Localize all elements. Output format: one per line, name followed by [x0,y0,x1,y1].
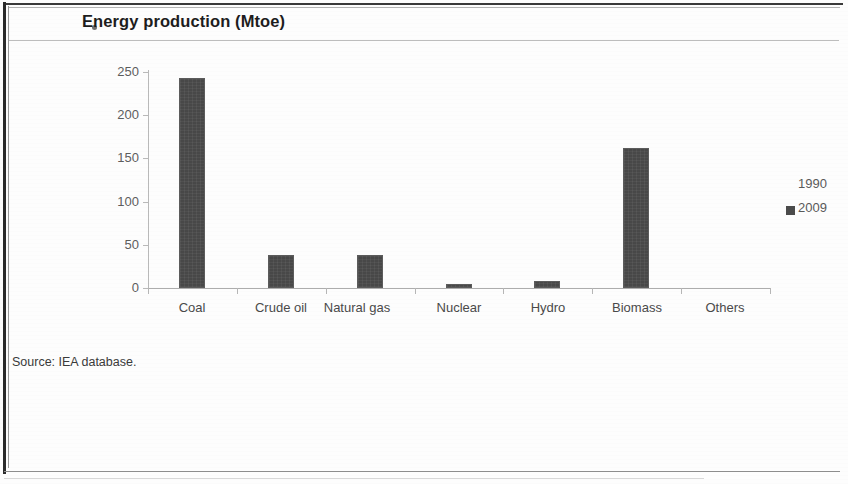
y-axis-tick [143,245,149,246]
x-axis-label-crude-oil: Crude oil [233,300,329,316]
legend-item-2009[interactable]: 2009 [786,200,848,224]
y-axis-label-0: 0 [95,280,139,295]
x-axis-label-natural-gas: Natural gas [322,300,392,316]
legend-label-2009: 2009 [798,200,827,215]
legend-label-1990: 1990 [798,176,827,191]
y-axis-line [148,70,149,289]
bar-nuclear-2009 [446,284,472,288]
x-axis-tick [681,288,682,294]
x-axis-tick [326,288,327,294]
source-note: Source: IEA database. [12,355,136,369]
y-axis-label-100: 100 [95,194,139,209]
x-axis-tick [770,288,771,294]
bar-natural-gas-2009 [357,255,383,288]
y-axis-label-200: 200 [95,107,139,122]
y-axis-tick [143,202,149,203]
bar-biomass-2009 [623,148,649,288]
chart-plot-area: 250 200 150 100 50 0 Co [0,0,848,484]
y-axis-tick [143,115,149,116]
x-axis-label-nuclear: Nuclear [411,300,507,316]
y-axis-label-250: 250 [95,64,139,79]
y-axis-tick [143,72,149,73]
x-axis-label-coal: Coal [144,300,240,316]
x-axis-label-hydro: Hydro [500,300,596,316]
x-axis-tick [592,288,593,294]
x-axis-label-others: Others [677,300,773,316]
y-axis-tick [143,158,149,159]
x-axis-tick [503,288,504,294]
bar-coal-2009 [179,78,205,288]
x-axis-label-biomass: Biomass [589,300,685,316]
legend-item-1990[interactable]: 1990 [786,176,848,200]
x-axis-tick [237,288,238,294]
y-axis-label-50: 50 [95,237,139,252]
y-axis-label-150: 150 [95,150,139,165]
x-axis-line [148,288,770,289]
bar-hydro-2009 [534,281,560,288]
x-axis-tick [415,288,416,294]
x-axis-tick [148,288,149,294]
legend-swatch-icon [786,206,795,215]
chart-legend: 1990 2009 [786,176,848,224]
scanned-page: Energy production (Mtoe) 250 200 150 100… [0,0,848,484]
bar-crude-oil-2009 [268,255,294,288]
